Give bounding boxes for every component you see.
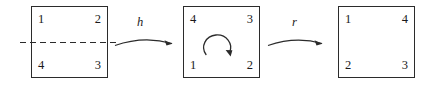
rotated-square: 1 4 2 3 <box>338 6 415 78</box>
arrow-h-shaft <box>115 40 172 46</box>
square-2-corner-top-right: 3 <box>247 13 253 26</box>
square-3-corner-bottom-right: 3 <box>402 59 408 72</box>
reflected-square: 4 3 1 2 <box>183 6 260 78</box>
arrow-r-head <box>315 40 323 45</box>
transformation-figure: 1 2 4 3 4 3 1 2 1 4 2 3 h r <box>0 0 429 91</box>
square-3-corner-top-left: 1 <box>345 13 351 26</box>
arrow-r-shaft <box>268 40 322 45</box>
arrow-h-head <box>165 40 173 45</box>
square-2-corner-bottom-right: 2 <box>247 59 253 72</box>
square-1-corner-top-right: 2 <box>95 13 101 26</box>
square-2-corner-bottom-left: 1 <box>190 59 196 72</box>
square-2-corner-top-left: 4 <box>190 13 196 26</box>
initial-square: 1 2 4 3 <box>31 6 108 78</box>
arrow-h <box>115 40 173 46</box>
square-1-corner-bottom-left: 4 <box>38 59 44 72</box>
square-3-corner-bottom-left: 2 <box>345 59 351 72</box>
arrow-h-label: h <box>137 16 143 29</box>
square-1-corner-top-left: 1 <box>38 13 44 26</box>
arrow-r-label: r <box>292 16 297 29</box>
arrow-r <box>268 40 323 46</box>
square-1-corner-bottom-right: 3 <box>95 59 101 72</box>
square-3-corner-top-right: 4 <box>402 13 408 26</box>
